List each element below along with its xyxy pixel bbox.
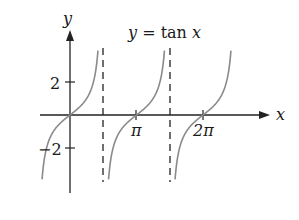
tick-label-2pi: 2π [192, 121, 214, 140]
tick-label-neg2: −2 [38, 140, 62, 159]
tick-label-2: 2 [50, 74, 60, 93]
chart-title: y = tan x [127, 23, 201, 42]
x-axis-label: x [276, 105, 285, 124]
chart-container: y x y = tan x 2 −2 π 2π [0, 0, 299, 220]
y-axis-arrow-icon [66, 30, 74, 41]
tan-chart: y x y = tan x 2 −2 π 2π [0, 0, 299, 220]
x-axis-arrow-icon [259, 111, 270, 119]
tick-label-pi: π [130, 121, 142, 140]
y-axis-label: y [62, 9, 73, 28]
